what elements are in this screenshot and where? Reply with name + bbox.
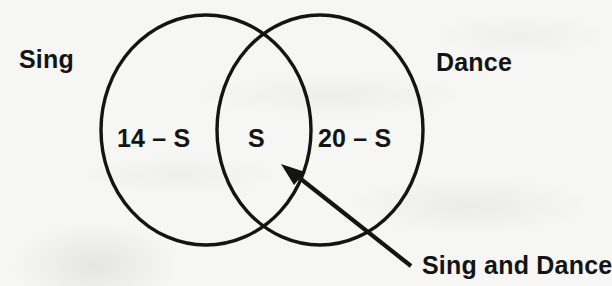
callout-label-sing-and-dance: Sing and Dance (422, 251, 612, 280)
set-label-sing: Sing (19, 45, 74, 74)
region-value-intersection: S (248, 124, 265, 153)
region-value-sing-only: 14 – S (117, 124, 190, 153)
region-value-dance-only: 20 – S (318, 124, 391, 153)
set-label-dance: Dance (436, 48, 512, 77)
